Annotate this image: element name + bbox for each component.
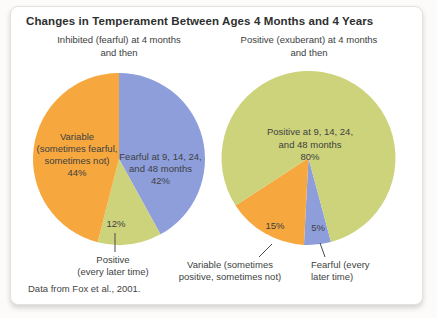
label-left-fearful-slice: Fearful at 9, 14, 24, and 48 months 42% — [112, 151, 209, 187]
label-line: later time) — [311, 271, 391, 283]
leader-line-right-variable — [259, 244, 272, 257]
label-line: Variable (sometimes — [176, 259, 284, 271]
data-source-note: Data from Fox et al., 2001. — [28, 283, 140, 294]
label-right-positive-slice: Positive at 9, 14, 24, and 48 months 80% — [255, 126, 365, 164]
label-left-positive-slice: Positive (every later time) — [53, 254, 173, 278]
label-right-fearful-slice: Fearful (every later time) — [311, 259, 391, 283]
label-left-variable-slice: Variable (sometimes fearful, sometimes n… — [30, 131, 124, 179]
label-line: Positive — [53, 254, 173, 266]
label-line: 80% — [255, 151, 365, 164]
label-line: Fearful (every — [311, 259, 391, 271]
label-right-variable-slice: Variable (sometimes positive, sometimes … — [176, 259, 284, 283]
label-right-variable-percent: 15% — [255, 220, 295, 232]
label-line: 44% — [30, 167, 124, 179]
label-line: and 48 months — [112, 163, 209, 175]
label-line: (every later time) — [53, 266, 173, 278]
label-left-positive-percent: 12% — [96, 218, 136, 230]
label-line: 42% — [112, 175, 209, 187]
label-line: Variable — [30, 131, 124, 143]
label-line: and 48 months — [255, 139, 365, 152]
leader-line-right-fearful — [320, 243, 325, 257]
label-line: positive, sometimes not) — [176, 271, 284, 283]
label-line: sometimes not) — [30, 155, 124, 167]
label-right-fearful-percent: 5% — [298, 222, 338, 234]
label-line: (sometimes fearful, — [30, 143, 124, 155]
label-line: Positive at 9, 14, 24, — [255, 126, 365, 139]
label-line: Fearful at 9, 14, 24, — [112, 151, 209, 163]
